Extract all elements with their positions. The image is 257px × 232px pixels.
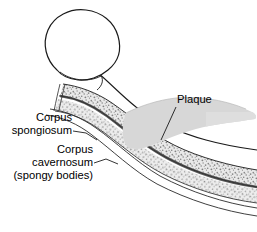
plaque-label: Plaque bbox=[177, 93, 212, 105]
anatomy-illustration: Plaque Corpus spongiosum Corpus cavernos… bbox=[0, 0, 257, 232]
corpus-cavernosum-label-line3: (spongy bodies) bbox=[13, 169, 93, 181]
corpus-spongiosum-label-line2: spongiosum bbox=[12, 124, 72, 136]
anatomical-figure: Plaque Corpus spongiosum Corpus cavernos… bbox=[0, 0, 257, 232]
corpus-cavernosum-label-line2: cavernosum bbox=[32, 156, 93, 168]
glans-shape bbox=[45, 10, 119, 80]
corpus-spongiosum-label-line1: Corpus bbox=[36, 111, 72, 123]
corpus-cavernosum-label-line1: Corpus bbox=[57, 143, 93, 155]
